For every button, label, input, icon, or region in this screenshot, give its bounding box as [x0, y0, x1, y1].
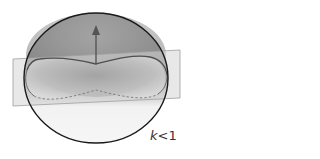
label-variable: k: [150, 128, 158, 143]
parameter-label: k<1: [150, 128, 177, 143]
label-relation: <1: [158, 128, 177, 143]
